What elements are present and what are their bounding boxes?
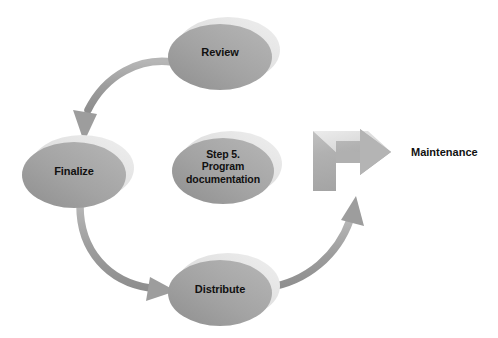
diagram-graphics [0, 0, 498, 338]
connector-review-to-finalize [73, 61, 172, 142]
node-step5[interactable] [172, 131, 282, 204]
node-finalize[interactable] [22, 135, 134, 208]
connector-distribute-to-maintenance [266, 196, 364, 288]
maintenance-label: Maintenance [411, 146, 478, 158]
maintenance-block-arrow [313, 129, 391, 191]
connector-finalize-to-distribute [80, 206, 176, 301]
node-review[interactable] [168, 17, 280, 90]
diagram-canvas: Review Finalize Step 5. Program document… [0, 0, 498, 338]
node-distribute[interactable] [168, 253, 280, 326]
